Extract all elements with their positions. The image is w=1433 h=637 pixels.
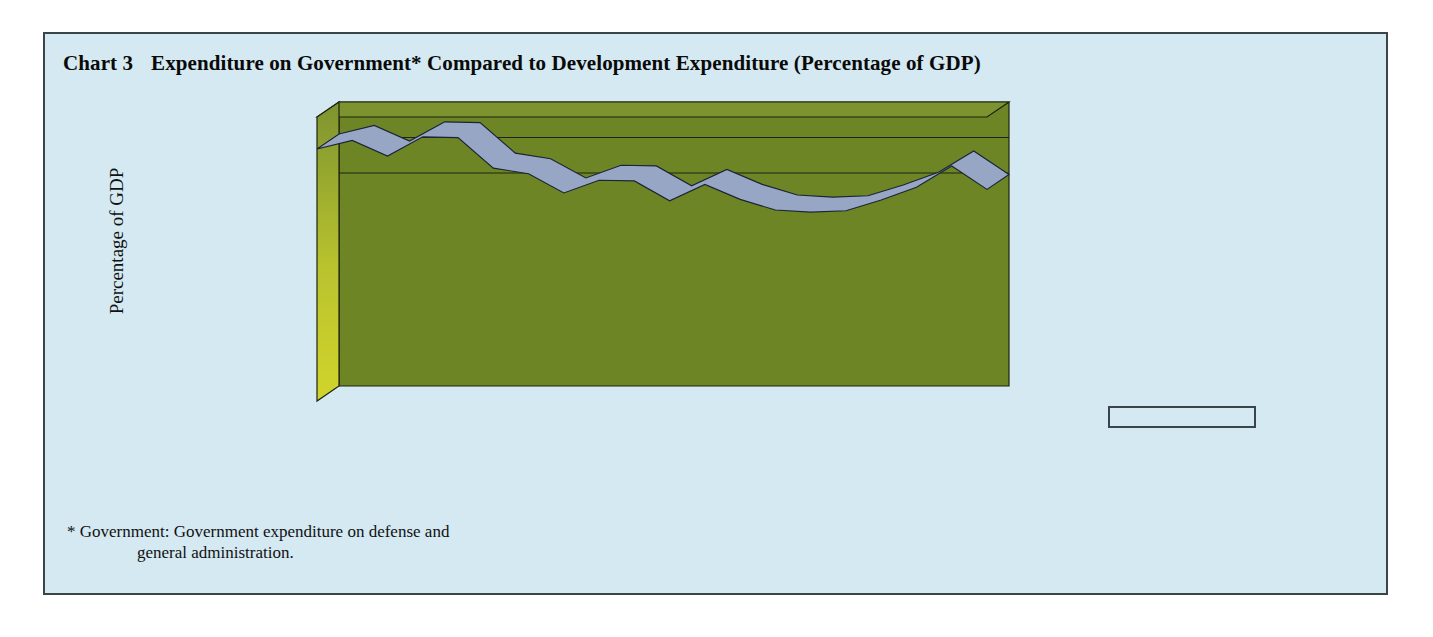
chart-panel: Chart 3 Expenditure on Government* Compa… [43,32,1388,595]
footnote: * Government: Government expenditure on … [67,521,449,564]
footnote-line-2: general administration. [67,542,449,563]
y-axis-title: Percentage of GDP [106,131,128,351]
chart-legend [1108,406,1256,428]
plot-area: Percentage of GDP [45,34,1390,597]
footnote-line-1: * Government: Government expenditure on … [67,522,449,541]
area-chart-svg [45,34,1390,597]
